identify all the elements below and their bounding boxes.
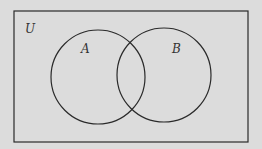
universe-rectangle [14,11,248,142]
set-b-label: B [171,42,181,56]
set-a-circle [51,30,145,124]
set-b-circle [117,28,211,122]
set-a-label: A [80,42,90,56]
venn-diagram: U A B [0,0,262,149]
universe-label: U [25,22,36,36]
